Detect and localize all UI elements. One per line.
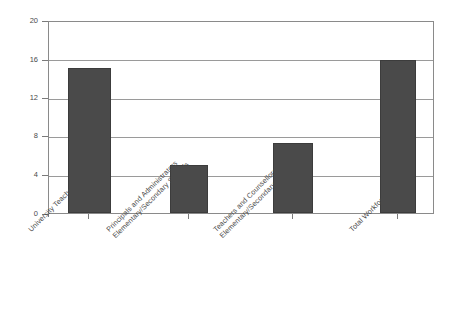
x-tick-mark-principals-and-administrators bbox=[188, 214, 189, 219]
y-tick-label-8: 8 bbox=[14, 132, 38, 140]
plot-area bbox=[48, 21, 434, 214]
y-tick-label-20: 20 bbox=[14, 17, 38, 25]
x-tick-mark-university-teachers bbox=[88, 214, 89, 219]
y-tick-label-16: 16 bbox=[14, 56, 38, 64]
x-tick-mark-total-workforce bbox=[397, 214, 398, 219]
y-tick-label-0: 0 bbox=[14, 210, 38, 218]
y-tick-label-4: 4 bbox=[14, 171, 38, 179]
bar-chart: 20 16 12 8 4 0 University Teachers Princ… bbox=[0, 0, 457, 320]
y-tick-label-12: 12 bbox=[14, 94, 38, 102]
x-tick-mark-teachers-and-counsellors bbox=[292, 214, 293, 219]
bar-total-workforce bbox=[380, 60, 416, 213]
gridline-16 bbox=[49, 60, 433, 61]
